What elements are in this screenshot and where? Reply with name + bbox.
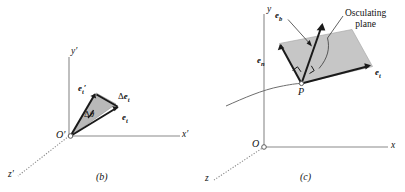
panel-b-label-et-prime: et′ — [78, 84, 86, 95]
panel-b-caption: (b) — [96, 172, 108, 182]
panel-b-y-axis-label: y′ — [71, 47, 77, 57]
panel-c-y-axis-label: y — [267, 5, 271, 15]
panel-c-label-eb-sub: b — [279, 15, 282, 22]
panel-c-group — [214, 14, 388, 180]
panel-c-point-p-marker — [299, 81, 303, 85]
panel-b-origin-label: O′ — [56, 130, 65, 140]
panel-c-origin-label: O — [252, 139, 259, 149]
panel-c-vector-eb-arrowhead — [317, 23, 326, 31]
panel-c-z-axis — [214, 147, 264, 180]
panel-c-callout-line2: plane — [345, 19, 386, 30]
figure-root: y′ x′ z′ O′ et′ et Δet Δθ (b) y x z O P … — [0, 0, 405, 192]
panel-c-label-en-sub: n — [261, 60, 265, 67]
panel-c-label-en: en — [257, 56, 265, 67]
panel-c-z-axis-label: z — [205, 174, 209, 184]
panel-c-x-axis-label: x — [391, 141, 395, 151]
panel-b-label-et-prime-mark: ′ — [84, 83, 87, 93]
panel-c-label-eb: eb — [275, 11, 282, 22]
panel-b-label-et-sub: t — [126, 117, 128, 124]
panel-b-label-delta-theta: Δθ — [84, 110, 94, 119]
panel-c-origin-marker — [262, 145, 267, 150]
panel-c-osculating-plane-callout: Osculating plane — [345, 8, 386, 30]
panel-b-label-et: et — [122, 113, 128, 124]
panel-b-x-axis-label: x′ — [182, 130, 188, 140]
panel-b-group — [18, 57, 180, 176]
panel-c-caption: (c) — [300, 172, 311, 182]
panel-c-label-et: et — [375, 68, 381, 79]
panel-b-origin-marker — [68, 134, 73, 139]
panel-b-label-delta-et: Δet — [118, 92, 130, 103]
panel-c-label-et-sub: t — [379, 72, 381, 79]
panel-b-z-axis — [18, 136, 69, 176]
panel-b-z-axis-label: z′ — [8, 170, 14, 180]
panel-c-point-p-label: P — [298, 87, 304, 97]
panel-b-label-delta-et-sub: t — [128, 96, 130, 103]
panel-c-callout-line1: Osculating — [345, 8, 386, 19]
panel-b-label-delta-theta-symbol: θ — [90, 109, 94, 119]
